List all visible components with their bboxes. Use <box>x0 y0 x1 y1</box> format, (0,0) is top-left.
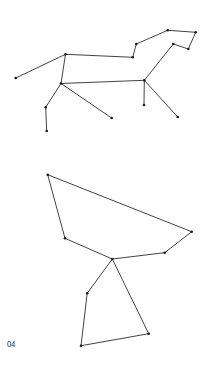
cup-constellation <box>46 173 193 347</box>
edge-line <box>46 84 61 108</box>
star-node <box>110 117 113 120</box>
star-node <box>163 251 166 254</box>
edge-line <box>61 54 66 83</box>
edge-line <box>81 334 149 346</box>
star-node <box>190 230 193 233</box>
edge-line <box>46 107 47 131</box>
edge-line <box>188 32 195 49</box>
star-node <box>64 237 67 240</box>
edge-line <box>112 253 164 259</box>
star-node <box>143 79 146 82</box>
edge-line <box>65 238 112 259</box>
star-node <box>143 104 146 107</box>
edge-line <box>66 54 133 57</box>
star-node <box>14 77 17 80</box>
edge-line <box>87 259 112 293</box>
star-node <box>60 82 63 85</box>
star-node <box>86 292 89 295</box>
star-node <box>172 43 175 46</box>
edge-line <box>112 259 148 334</box>
star-node <box>46 173 49 176</box>
star-node <box>131 56 134 59</box>
edge-line <box>136 30 167 44</box>
edge-line <box>165 232 192 253</box>
edge-line <box>48 175 192 232</box>
star-node <box>44 106 47 109</box>
edge-line <box>133 44 137 57</box>
star-node <box>111 258 114 261</box>
star-node <box>176 116 179 119</box>
edge-line <box>16 54 66 78</box>
edge-line <box>81 293 87 345</box>
star-node <box>80 344 83 347</box>
edge-line <box>173 44 188 49</box>
star-node <box>45 130 48 133</box>
star-node <box>194 31 197 34</box>
edge-line <box>61 84 112 119</box>
edge-line <box>61 80 144 83</box>
horse-constellation <box>14 29 197 132</box>
edge-line <box>48 175 65 239</box>
figure-number-label: 04 <box>7 339 15 349</box>
star-node <box>64 53 67 56</box>
edge-line <box>144 44 173 80</box>
star-node <box>187 48 190 51</box>
edge-line <box>144 80 177 117</box>
edge-line <box>168 30 196 32</box>
star-node <box>147 332 150 335</box>
star-node <box>166 29 169 32</box>
star-node <box>135 43 138 46</box>
constellation-diagram <box>0 0 207 370</box>
